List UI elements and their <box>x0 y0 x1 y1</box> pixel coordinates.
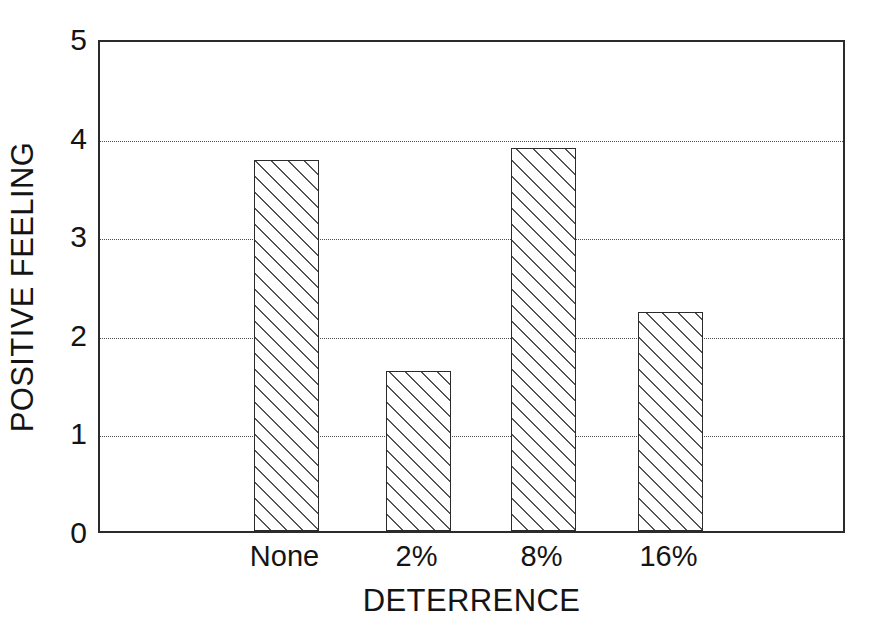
bar <box>638 312 703 531</box>
x-axis-title: DETERRENCE <box>98 583 845 619</box>
y-axis-tick-label: 4 <box>70 124 98 154</box>
x-axis-tick-label: 16% <box>639 536 697 576</box>
gridline <box>100 141 843 142</box>
gridline <box>100 338 843 339</box>
plot-area <box>98 40 845 533</box>
gridline <box>100 239 843 240</box>
x-axis-tick-label: None <box>250 536 319 576</box>
y-axis-tick-label: 1 <box>70 419 98 449</box>
x-axis-tick-label: 2% <box>396 536 438 576</box>
y-axis-tick-labels: 543210 <box>0 40 98 533</box>
bar-chart: POSITIVE FEELING 543210 None2%8%16% DETE… <box>0 0 877 644</box>
bar <box>254 160 319 531</box>
bar <box>511 148 576 531</box>
x-axis-tick-label: 8% <box>521 536 563 576</box>
x-axis-tick-labels: None2%8%16% <box>98 536 845 582</box>
y-axis-tick-label: 0 <box>70 518 98 548</box>
gridline <box>100 436 843 437</box>
y-axis-tick-label: 3 <box>70 222 98 252</box>
y-axis-tick-label: 2 <box>70 321 98 351</box>
bar <box>386 371 451 531</box>
y-axis-tick-label: 5 <box>70 25 98 55</box>
